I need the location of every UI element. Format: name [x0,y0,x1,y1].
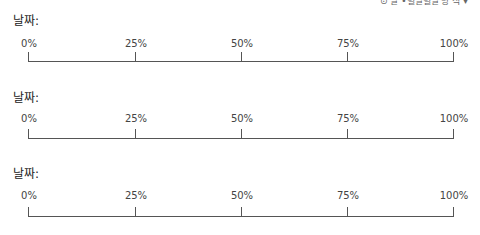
tick-label-100: 100% [440,113,469,124]
tick-label-0: 0% [21,113,37,124]
date-label: 날짜: [13,88,39,105]
tick-label-50: 50% [231,190,253,201]
axis-line [28,61,454,62]
tick-label-100: 100% [440,190,469,201]
date-label: 날짜: [13,11,39,28]
tick-label-75: 75% [337,113,359,124]
tick-label-50: 50% [231,113,253,124]
header-cut-text: ⊙ 날 •별날별날 방 식 ▾ [380,0,480,4]
tick-label-25: 25% [125,190,147,201]
axis-line [28,216,454,217]
date-label: 날짜: [13,164,39,181]
tick-label-25: 25% [125,38,147,49]
tick-label-75: 75% [337,190,359,201]
tick-label-100: 100% [440,38,469,49]
tick-label-50: 50% [231,38,253,49]
tick-label-0: 0% [21,38,37,49]
tick-label-0: 0% [21,190,37,201]
tick-label-75: 75% [337,38,359,49]
tick-label-25: 25% [125,113,147,124]
axis-line [28,138,454,139]
